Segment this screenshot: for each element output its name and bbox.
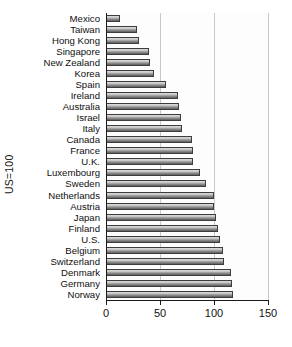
bar-row (106, 101, 268, 112)
bar (106, 247, 223, 254)
bar-row (106, 245, 268, 256)
bar-series (106, 13, 268, 300)
y-axis-tick-label: Norway (16, 289, 103, 300)
x-axis-tick-label: 150 (259, 307, 277, 319)
bar-row (106, 212, 268, 223)
bar-row (106, 223, 268, 234)
x-axis-tick-label: 100 (205, 307, 223, 319)
y-axis-tick-label: Austria (16, 201, 103, 212)
bar (106, 214, 216, 221)
x-axis-tick (160, 301, 161, 305)
x-axis-line (106, 300, 269, 301)
bar (106, 147, 193, 154)
bar-row (106, 167, 268, 178)
bar-row (106, 90, 268, 101)
bar (106, 180, 206, 187)
y-axis-tick-label: Finland (16, 223, 103, 234)
y-axis-tick-label: Mexico (16, 13, 103, 24)
bar (106, 125, 182, 132)
bar (106, 158, 193, 165)
x-axis-tick (214, 301, 215, 305)
bar-row (106, 123, 268, 134)
plot-area (106, 13, 268, 300)
bar-row (106, 278, 268, 289)
bar (106, 203, 214, 210)
y-axis-tick-label: Belgium (16, 245, 103, 256)
bar-row (106, 267, 268, 278)
bar (106, 225, 218, 232)
bar (106, 15, 120, 22)
y-axis-tick-label: Korea (16, 68, 103, 79)
bar-row (106, 68, 268, 79)
bar-chart: US=100 MexicoTaiwanHong KongSingaporeNew… (0, 0, 292, 347)
bar-row (106, 24, 268, 35)
bar (106, 169, 200, 176)
y-axis-tick-label: Germany (16, 278, 103, 289)
y-axis-tick-label: U.K. (16, 156, 103, 167)
y-axis-tick-label: Denmark (16, 267, 103, 278)
y-axis-tick-label: Sweden (16, 178, 103, 189)
bar-row (106, 79, 268, 90)
bar (106, 26, 137, 33)
bar (106, 136, 192, 143)
bar-row (106, 178, 268, 189)
x-axis-tick (106, 301, 107, 305)
bar-row (106, 112, 268, 123)
y-axis-tick-label: Taiwan (16, 24, 103, 35)
y-axis-tick-label: Netherlands (16, 190, 103, 201)
y-axis-tick-label: Japan (16, 212, 103, 223)
bar-row (106, 13, 268, 24)
y-axis-tick-label: Ireland (16, 90, 103, 101)
bar (106, 81, 166, 88)
y-axis-tick-label: Italy (16, 123, 103, 134)
x-axis-tick-label: 0 (103, 307, 109, 319)
bar-row (106, 145, 268, 156)
y-axis-tick-label: Canada (16, 134, 103, 145)
bar (106, 59, 150, 66)
gridline (268, 13, 269, 300)
y-axis-tick-label: Singapore (16, 46, 103, 57)
bar-row (106, 46, 268, 57)
bar (106, 48, 149, 55)
bar (106, 258, 224, 265)
bar-row (106, 256, 268, 267)
bar (106, 114, 181, 121)
y-axis-tick-label: Hong Kong (16, 35, 103, 46)
y-axis-tick-labels: MexicoTaiwanHong KongSingaporeNew Zealan… (16, 13, 103, 300)
bar-row (106, 57, 268, 68)
bar (106, 236, 220, 243)
bar (106, 192, 214, 199)
bar-row (106, 201, 268, 212)
bar-row (106, 134, 268, 145)
bar (106, 70, 154, 77)
bar-row (106, 234, 268, 245)
y-axis-tick-label: Switzerland (16, 256, 103, 267)
bar-row (106, 35, 268, 46)
bar (106, 269, 231, 276)
bar (106, 37, 139, 44)
bar (106, 92, 178, 99)
y-axis-tick-label: France (16, 145, 103, 156)
bar (106, 280, 232, 287)
bar-row (106, 156, 268, 167)
y-axis-tick-label: U.S. (16, 234, 103, 245)
bar-row (106, 190, 268, 201)
bar (106, 103, 179, 110)
y-axis-tick-label: New Zealand (16, 57, 103, 68)
y-axis-tick-label: Luxembourg (16, 167, 103, 178)
y-axis-tick-label: Australia (16, 101, 103, 112)
y-axis-tick-label: Spain (16, 79, 103, 90)
x-axis-tick (268, 301, 269, 305)
y-axis-line (106, 13, 107, 301)
bar-row (106, 289, 268, 300)
x-axis-tick-label: 50 (154, 307, 166, 319)
bar (106, 291, 233, 298)
y-axis-tick-label: Israel (16, 112, 103, 123)
y-axis-title: US=100 (2, 134, 16, 214)
